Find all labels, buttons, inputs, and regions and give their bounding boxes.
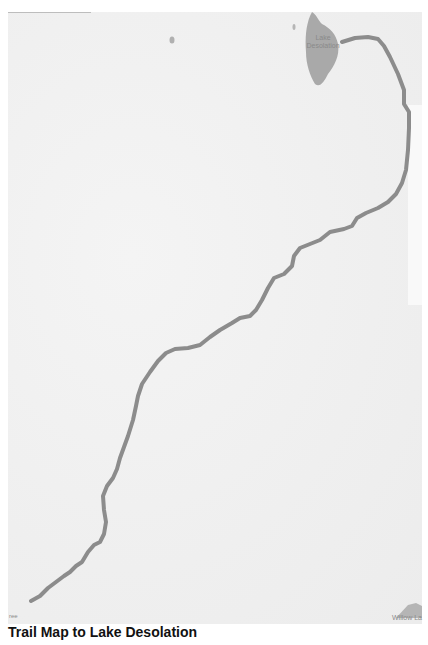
pond-icon — [170, 37, 175, 44]
willow-lake-label: Willow La — [392, 614, 422, 622]
map-caption-title: Trail Map to Lake Desolation — [8, 624, 197, 640]
trail-route-line[interactable] — [31, 37, 409, 601]
pond-icon — [293, 24, 296, 30]
lake-label-line1: Lake — [303, 34, 343, 42]
lake-label: Lake Desolation — [303, 34, 343, 50]
bottom-left-place-label: ree — [9, 612, 18, 620]
map-overlay — [0, 0, 428, 645]
lake-label-line2: Desolation — [303, 42, 343, 50]
